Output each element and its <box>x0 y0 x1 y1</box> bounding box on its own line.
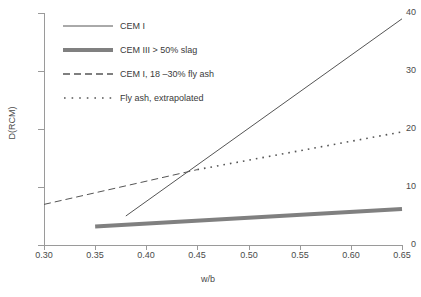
legend-swatch-fly-ash <box>63 62 113 86</box>
series-line <box>44 170 197 205</box>
series-line <box>95 209 402 226</box>
legend: CEM I CEM III > 50% slag CEM I, 18 –30% … <box>63 14 293 110</box>
legend-item-cem-iii-slag: CEM III > 50% slag <box>63 38 293 62</box>
legend-label-fly-ash-extrapolated: Fly ash, extrapolated <box>120 93 204 103</box>
legend-swatch-cem-iii-slag <box>63 38 113 62</box>
legend-item-fly-ash: CEM I, 18 –30% fly ash <box>63 62 293 86</box>
legend-item-cem-i: CEM I <box>63 14 293 38</box>
series-line <box>197 132 402 170</box>
legend-swatch-fly-ash-extrapolated <box>63 86 113 110</box>
legend-label-cem-i: CEM I <box>120 21 145 31</box>
legend-swatch-cem-i <box>63 14 113 38</box>
legend-label-cem-iii-slag: CEM III > 50% slag <box>120 45 197 55</box>
legend-label-fly-ash: CEM I, 18 –30% fly ash <box>120 69 214 79</box>
legend-item-fly-ash-extrapolated: Fly ash, extrapolated <box>63 86 293 110</box>
